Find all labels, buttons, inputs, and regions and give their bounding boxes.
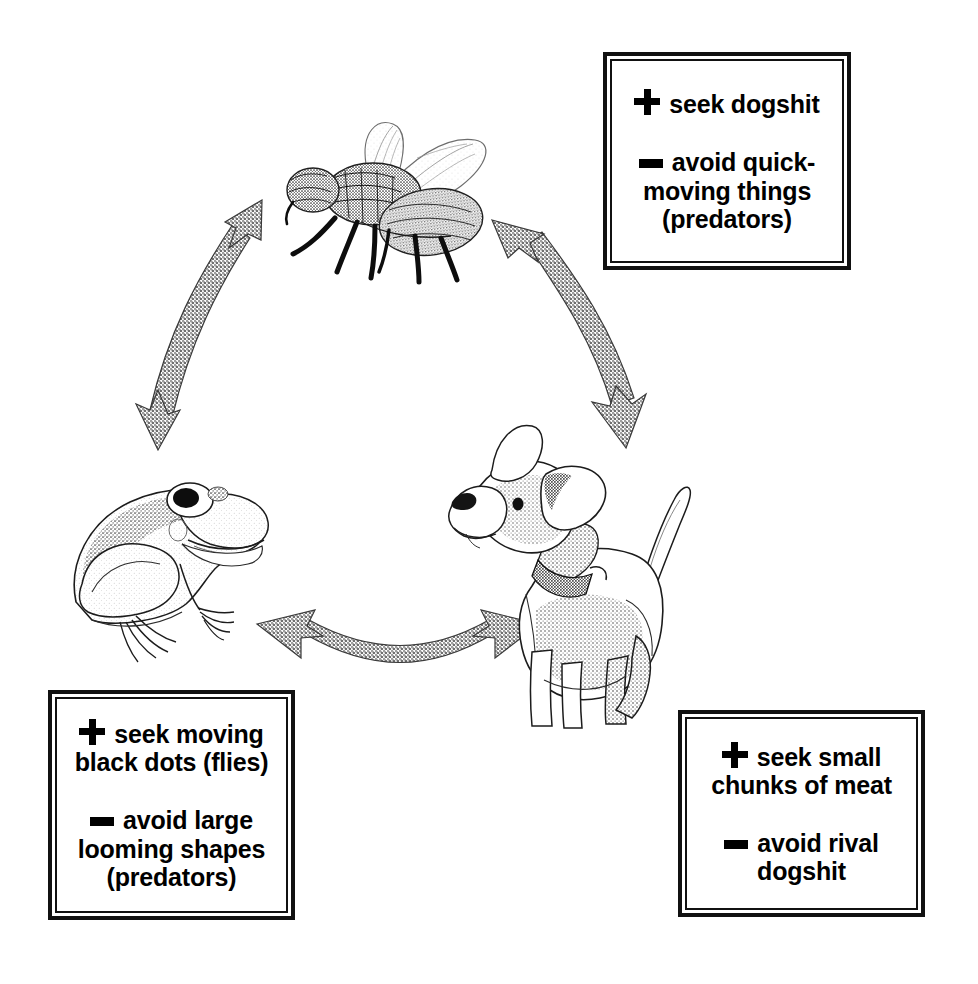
plus-icon	[634, 89, 660, 115]
fly-illustration	[265, 112, 515, 287]
minus-icon	[90, 811, 114, 831]
fly-seek-text: seek dogshit	[669, 90, 819, 118]
fly-seek-rule: seek dogshit	[634, 89, 819, 118]
dog-seek-rule: seek small chunks of meat	[711, 742, 892, 800]
dog-avoid-rule: avoid rival dogshit	[724, 829, 878, 886]
dog-rules-box: seek small chunks of meat avoid rival do…	[678, 710, 925, 917]
frog-illustration	[58, 452, 298, 667]
dog-illustration	[440, 418, 730, 733]
minus-icon	[639, 153, 663, 173]
plus-icon	[79, 719, 105, 745]
fly-rules-box: seek dogshit avoid quick- moving things …	[603, 52, 851, 270]
frog-rules-box: seek moving black dots (flies) avoid lar…	[48, 690, 295, 920]
arrow-frog-fly	[128, 182, 278, 452]
fly-avoid-text: avoid quick- moving things (predators)	[643, 148, 815, 233]
dog-avoid-text: avoid rival dogshit	[757, 829, 879, 885]
frog-seek-rule: seek moving black dots (flies)	[75, 719, 269, 777]
minus-icon	[724, 834, 748, 854]
plus-icon	[722, 742, 748, 768]
frog-avoid-rule: avoid large looming shapes (predators)	[78, 806, 266, 891]
diagram-canvas: seek dogshit avoid quick- moving things …	[0, 0, 978, 984]
fly-avoid-rule: avoid quick- moving things (predators)	[639, 148, 815, 233]
